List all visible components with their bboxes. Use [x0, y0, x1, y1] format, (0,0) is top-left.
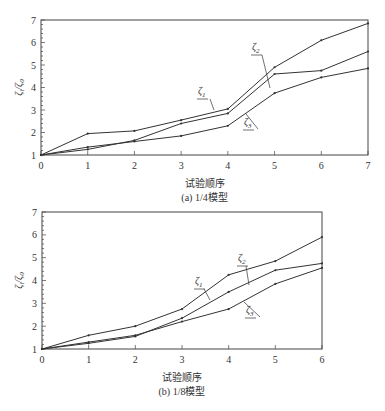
- series-label-ζ3: ζ3: [244, 302, 260, 318]
- series-label-ζ1: ζ1: [197, 85, 214, 110]
- svg-text:ζ1: ζ1: [195, 275, 203, 289]
- data-point: [227, 112, 229, 114]
- x-axis-title: 试验顺序: [185, 177, 225, 189]
- figure: 123456701234567试验顺序(a) 1/4模型ζi/ζ0ζ1ζ2ζ3 …: [0, 0, 385, 411]
- y-tick-label: 1: [31, 150, 36, 161]
- data-point: [133, 140, 135, 142]
- x-axis-title: 试验顺序: [162, 371, 202, 383]
- x-tick-label: 2: [133, 354, 138, 365]
- y-tick-label: 4: [32, 275, 37, 286]
- x-tick-label: 3: [179, 160, 184, 171]
- data-point: [228, 308, 230, 310]
- data-point: [321, 262, 323, 264]
- series-ζ2: [40, 50, 369, 156]
- x-tick-label: 7: [366, 160, 371, 171]
- data-point: [88, 341, 90, 343]
- svg-text:ζ2: ζ2: [252, 41, 260, 55]
- x-axis: 0123456: [40, 345, 325, 365]
- y-tick-label: 7: [32, 207, 37, 218]
- x-tick-label: 5: [272, 160, 277, 171]
- y-tick-label: 3: [32, 298, 37, 309]
- data-point: [134, 334, 136, 336]
- y-tick-label: 5: [31, 60, 36, 71]
- chart-a-1-4-model: 123456701234567试验顺序(a) 1/4模型ζi/ζ0ζ1ζ2ζ3: [13, 15, 371, 205]
- y-tick-label: 1: [32, 344, 37, 355]
- x-tick-label: 0: [39, 160, 44, 171]
- data-point: [367, 50, 369, 52]
- svg-text:ζ2: ζ2: [238, 252, 246, 266]
- x-tick-label: 1: [86, 354, 91, 365]
- data-point: [181, 317, 183, 319]
- data-point: [181, 308, 183, 310]
- y-tick-label: 3: [31, 105, 36, 116]
- data-point: [367, 22, 369, 24]
- y-tick-label: 6: [32, 229, 37, 240]
- data-point: [180, 119, 182, 121]
- y-axis: 1234567: [32, 207, 46, 355]
- series-label-ζ3: ζ3: [243, 114, 258, 130]
- series-ζ3: [40, 67, 369, 156]
- plot-frame: [42, 212, 322, 349]
- series-label-ζ2: ζ2: [237, 252, 249, 285]
- x-tick-label: 0: [40, 354, 45, 365]
- x-tick-label: 3: [180, 354, 185, 365]
- y-axis-title: ζi/ζ0: [13, 272, 26, 289]
- y-tick-label: 4: [31, 82, 36, 93]
- data-point: [273, 73, 275, 75]
- data-point: [87, 133, 89, 135]
- data-point: [87, 146, 89, 148]
- data-point: [367, 67, 369, 69]
- x-tick-label: 6: [319, 160, 324, 171]
- y-tick-label: 6: [31, 37, 36, 48]
- data-point: [227, 108, 229, 110]
- plot-frame: [41, 20, 368, 155]
- data-point: [40, 154, 42, 156]
- data-point: [41, 348, 43, 350]
- data-point: [134, 325, 136, 327]
- x-tick-label: 6: [320, 354, 325, 365]
- data-point: [181, 321, 183, 323]
- data-point: [320, 70, 322, 72]
- data-point: [228, 274, 230, 276]
- data-point: [227, 125, 229, 127]
- data-point: [321, 267, 323, 269]
- figure-caption: (b) 1/8模型: [159, 385, 206, 398]
- data-point: [228, 291, 230, 293]
- series-label-ζ1: ζ1: [194, 275, 210, 300]
- y-axis: 1234567: [31, 15, 45, 161]
- data-point: [321, 236, 323, 238]
- series-ζ1: [41, 236, 323, 350]
- svg-text:ζ1: ζ1: [198, 85, 206, 99]
- x-tick-label: 2: [132, 160, 137, 171]
- y-tick-label: 2: [31, 127, 36, 138]
- x-tick-label: 1: [85, 160, 90, 171]
- series-label-ζ2: ζ2: [251, 41, 270, 88]
- chart-b-1-8-model: 12345670123456试验顺序(b) 1/8模型ζi/ζ0ζ1ζ2ζ3: [13, 207, 325, 399]
- data-point: [273, 66, 275, 68]
- series-ζ1: [40, 22, 369, 156]
- data-point: [273, 92, 275, 94]
- y-tick-label: 7: [31, 15, 36, 26]
- y-axis-title: ζi/ζ0: [13, 79, 26, 96]
- data-point: [88, 334, 90, 336]
- svg-text:ζ3: ζ3: [244, 116, 252, 130]
- data-point: [133, 130, 135, 132]
- x-tick-label: 5: [273, 354, 278, 365]
- data-point: [320, 76, 322, 78]
- data-point: [180, 122, 182, 124]
- data-point: [274, 269, 276, 271]
- x-axis: 01234567: [39, 151, 371, 171]
- data-point: [87, 148, 89, 150]
- y-tick-label: 5: [32, 252, 37, 263]
- figure-caption: (a) 1/4模型: [181, 191, 227, 204]
- x-tick-label: 4: [226, 354, 231, 365]
- data-point: [274, 260, 276, 262]
- data-point: [320, 39, 322, 41]
- data-point: [180, 135, 182, 137]
- x-tick-label: 4: [225, 160, 230, 171]
- y-tick-label: 2: [32, 321, 37, 332]
- data-point: [274, 283, 276, 285]
